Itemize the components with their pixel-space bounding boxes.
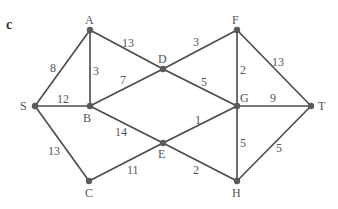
edge-weight-s-b: 12 — [57, 92, 69, 106]
edge-weight-d-g: 5 — [201, 75, 207, 89]
node-label-s: S — [20, 99, 27, 113]
edge-weight-f-t: 13 — [272, 55, 284, 69]
edge-weight-g-t: 9 — [270, 91, 276, 105]
edge-weight-s-c: 13 — [48, 144, 60, 158]
edge-weight-b-d: 7 — [120, 73, 126, 87]
edge-d-f — [163, 30, 237, 69]
node-label-b: B — [83, 111, 91, 125]
weighted-graph-diagram: c 81213313714113521391525 SABCDEFGHT — [0, 0, 338, 209]
edge-weight-d-f: 3 — [193, 35, 199, 49]
edge-weight-s-a: 8 — [50, 61, 56, 75]
graph-edges — [35, 30, 311, 181]
node-d — [160, 66, 166, 72]
edge-weight-e-g: 1 — [195, 113, 201, 127]
node-e — [160, 140, 166, 146]
node-label-t: T — [318, 99, 326, 113]
node-c — [86, 178, 92, 184]
node-label-d: D — [158, 52, 167, 66]
node-a — [87, 27, 93, 33]
node-b — [87, 103, 93, 109]
node-label-g: G — [240, 91, 249, 105]
edge-weight-b-e: 14 — [115, 125, 127, 139]
edge-weight-f-g: 2 — [240, 63, 246, 77]
edge-weight-t-h: 5 — [276, 141, 282, 155]
edge-s-c — [35, 106, 89, 181]
edge-t-h — [237, 106, 311, 181]
node-f — [234, 27, 240, 33]
edge-d-g — [163, 69, 237, 106]
edge-weight-e-h: 2 — [193, 163, 199, 177]
node-label-f: F — [232, 13, 239, 27]
node-label-e: E — [158, 147, 165, 161]
node-t — [308, 103, 314, 109]
edge-weight-a-b: 3 — [93, 64, 99, 78]
edge-weight-g-h: 5 — [240, 136, 246, 150]
node-label-a: A — [85, 13, 94, 27]
node-s — [32, 103, 38, 109]
node-h — [234, 178, 240, 184]
edge-e-h — [163, 143, 237, 181]
edge-weight-c-e: 11 — [127, 163, 139, 177]
edge-b-d — [90, 69, 163, 106]
part-label: c — [6, 17, 12, 32]
edge-c-e — [89, 143, 163, 181]
node-label-c: C — [85, 186, 93, 200]
node-label-h: H — [232, 186, 241, 200]
edge-weight-a-d: 13 — [122, 36, 134, 50]
